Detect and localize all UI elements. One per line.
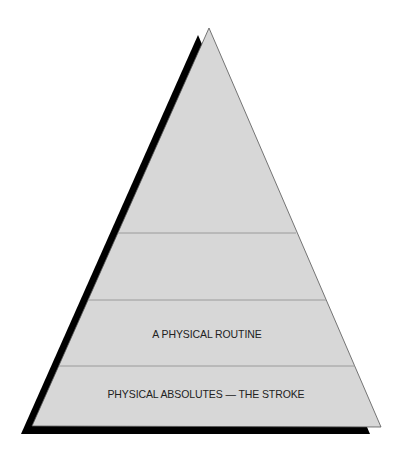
- tier-label-absolutes: PHYSICAL ABSOLUTES — THE STROKE: [107, 388, 304, 400]
- tier-label-routine: A PHYSICAL ROUTINE: [152, 328, 261, 340]
- pyramid-diagram: A PHYSICAL ROUTINE PHYSICAL ABSOLUTES — …: [0, 0, 402, 458]
- pyramid-body: [32, 28, 381, 427]
